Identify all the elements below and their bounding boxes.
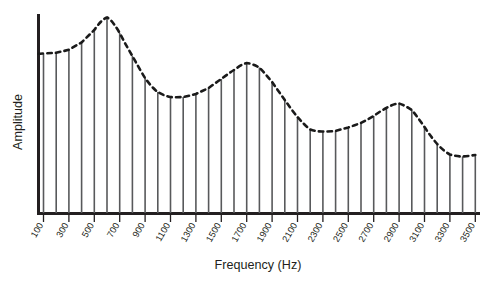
x-tick-label-0: 100 [29,221,45,239]
x-axis-title: Frequency (Hz) [215,258,302,272]
x-tick-label-3: 700 [105,221,121,239]
x-tick-label-1: 300 [54,221,70,239]
x-tick-label-2: 500 [80,221,96,239]
spectral-envelope-curve [39,18,476,157]
y-axis-title: Amplitude [11,94,25,150]
x-tick-label-5: 1100 [154,221,173,243]
x-tick-label-10: 2100 [280,221,299,244]
stem-group [44,18,476,214]
x-tick-label-6: 1300 [179,221,198,244]
x-tick-label-17: 3500 [458,221,477,244]
x-tick-group [44,215,476,222]
x-tick-label-7: 1500 [204,221,223,244]
x-tick-label-4: 900 [130,221,146,239]
x-tick-label-12: 2500 [331,221,350,244]
x-tick-label-16: 3300 [433,221,452,244]
x-tick-label-9: 1900 [255,221,274,244]
frequency-amplitude-chart: Amplitude [0,0,496,286]
chart-figure: Amplitude [0,0,496,286]
x-tick-label-11: 2300 [306,221,325,244]
x-tick-label-14: 2900 [382,221,401,244]
x-tick-label-group: 100 300 500 700 900 1100 1300 1500 1700 … [29,221,477,244]
x-tick-label-8: 1700 [230,221,249,244]
x-tick-label-15: 3100 [407,221,426,244]
x-tick-label-13: 2700 [357,221,376,244]
